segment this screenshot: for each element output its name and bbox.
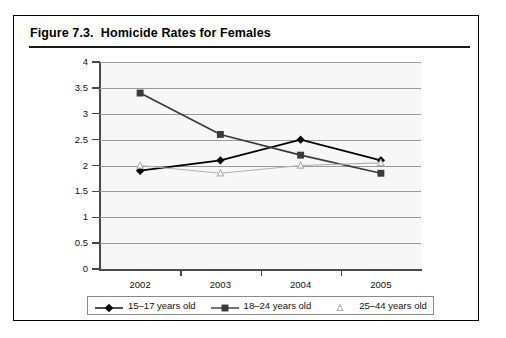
gridline — [100, 243, 421, 244]
y-axis-tick — [92, 217, 100, 218]
y-axis-tick — [92, 87, 100, 88]
x-axis-tick — [180, 269, 181, 276]
y-axis-tick-label: 4 — [28, 56, 88, 67]
legend-item-label: 15–17 years old — [128, 300, 196, 311]
legend-item-label: 18–24 years old — [244, 300, 312, 311]
y-axis-tick-label: 2 — [28, 160, 88, 171]
y-axis-tick — [92, 61, 100, 62]
chart-legend: 15–17 years old18–24 years old25–44 year… — [87, 296, 434, 315]
y-axis-labels: 00.511.522.533.54 — [22, 62, 88, 270]
gridline — [100, 114, 421, 115]
x-axis-tick-label: 2005 — [346, 279, 416, 290]
gridline — [100, 166, 421, 167]
y-axis-tick-label: 1 — [28, 211, 88, 222]
x-axis-tick-label: 2002 — [105, 279, 175, 290]
x-axis-tick-label: 2003 — [185, 279, 255, 290]
x-axis-tick — [341, 269, 342, 276]
x-axis-tick-label: 2004 — [266, 279, 336, 290]
y-axis-tick — [92, 268, 100, 269]
open-triangle-icon — [325, 300, 355, 312]
gridline — [100, 217, 421, 218]
y-axis-tick-label: 0 — [28, 263, 88, 274]
y-axis-tick — [92, 165, 100, 166]
filled-square-icon — [210, 300, 240, 312]
gridline — [100, 88, 421, 89]
y-axis-tick — [92, 242, 100, 243]
y-axis-tick-label: 2.5 — [28, 134, 88, 145]
x-axis-tick — [261, 269, 262, 276]
filled-diamond-icon — [94, 300, 124, 312]
gridline — [100, 191, 421, 192]
gridline — [100, 140, 421, 141]
legend-item[interactable]: 25–44 years old — [325, 297, 427, 314]
legend-item-label: 25–44 years old — [359, 300, 427, 311]
y-axis-tick-label: 3.5 — [28, 82, 88, 93]
legend-item[interactable]: 18–24 years old — [210, 297, 312, 314]
y-axis-tick-label: 1.5 — [28, 185, 88, 196]
legend-item[interactable]: 15–17 years old — [94, 297, 196, 314]
gridline — [100, 62, 421, 63]
y-axis-tick-label: 3 — [28, 108, 88, 119]
chart-plot: 00.511.522.533.54 2002200320042005 — [14, 16, 480, 322]
figure-frame: Figure 7.3. Homicide Rates for Females 0… — [13, 15, 479, 321]
y-axis-tick-label: 0.5 — [28, 237, 88, 248]
y-axis-tick — [92, 113, 100, 114]
y-axis-tick — [92, 139, 100, 140]
y-axis-tick — [92, 191, 100, 192]
